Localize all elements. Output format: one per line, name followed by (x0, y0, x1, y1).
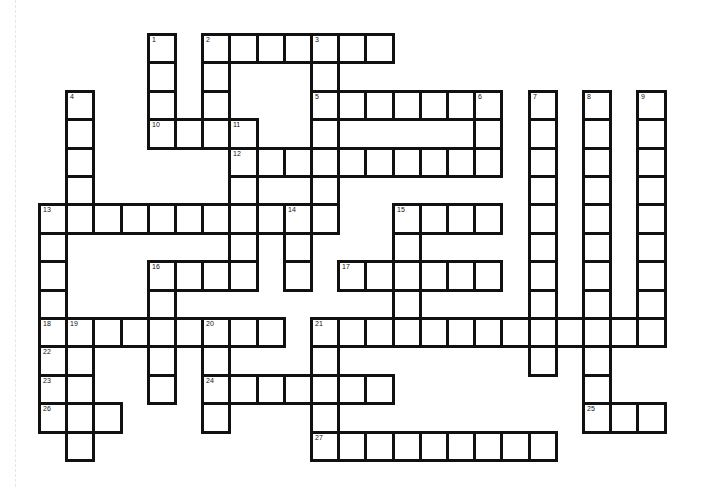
crossword-cell[interactable] (473, 118, 503, 150)
crossword-cell[interactable] (337, 33, 367, 64)
crossword-cell[interactable] (228, 260, 259, 292)
crossword-cell[interactable] (147, 317, 177, 348)
crossword-cell[interactable] (228, 317, 259, 348)
crossword-cell[interactable] (283, 33, 313, 64)
crossword-cell[interactable] (65, 203, 95, 235)
crossword-cell[interactable] (337, 90, 367, 121)
crossword-cell[interactable]: 2 (201, 33, 231, 64)
crossword-cell[interactable] (582, 203, 612, 235)
crossword-cell[interactable] (228, 175, 259, 206)
crossword-cell[interactable] (65, 175, 95, 206)
crossword-cell[interactable] (392, 90, 422, 121)
crossword-cell[interactable] (473, 147, 503, 178)
crossword-cell[interactable] (364, 260, 395, 292)
crossword-cell[interactable] (147, 61, 177, 93)
crossword-cell[interactable] (38, 260, 68, 292)
crossword-cell[interactable] (528, 175, 558, 206)
crossword-cell[interactable] (201, 260, 231, 292)
crossword-cell[interactable] (582, 345, 612, 377)
crossword-cell[interactable] (446, 147, 476, 178)
crossword-cell[interactable] (228, 232, 259, 263)
crossword-cell[interactable] (310, 175, 340, 206)
crossword-cell[interactable] (419, 431, 449, 462)
crossword-cell[interactable] (283, 232, 313, 263)
crossword-cell[interactable] (528, 260, 558, 292)
crossword-cell[interactable] (65, 374, 95, 405)
crossword-cell[interactable] (174, 260, 204, 292)
crossword-cell[interactable] (310, 147, 340, 178)
crossword-cell[interactable] (364, 90, 395, 121)
crossword-cell[interactable]: 25 (582, 402, 612, 434)
crossword-cell[interactable] (392, 289, 422, 320)
crossword-cell[interactable] (256, 374, 286, 405)
crossword-cell[interactable] (582, 232, 612, 263)
crossword-cell[interactable] (228, 374, 259, 405)
crossword-cell[interactable]: 4 (65, 90, 95, 121)
crossword-cell[interactable] (392, 232, 422, 263)
crossword-cell[interactable] (446, 431, 476, 462)
crossword-cell[interactable] (364, 317, 395, 348)
crossword-cell[interactable] (201, 118, 231, 150)
crossword-cell[interactable] (364, 33, 395, 64)
crossword-cell[interactable]: 8 (582, 90, 612, 121)
crossword-cell[interactable]: 13 (38, 203, 68, 235)
crossword-cell[interactable]: 23 (38, 374, 68, 405)
crossword-cell[interactable] (147, 374, 177, 405)
crossword-cell[interactable] (473, 317, 503, 348)
crossword-cell[interactable] (38, 289, 68, 320)
crossword-cell[interactable] (310, 374, 340, 405)
crossword-cell[interactable] (174, 118, 204, 150)
crossword-cell[interactable] (201, 90, 231, 121)
crossword-cell[interactable] (419, 317, 449, 348)
crossword-cell[interactable] (337, 317, 367, 348)
crossword-cell[interactable] (473, 203, 503, 235)
crossword-cell[interactable] (228, 203, 259, 235)
crossword-cell[interactable] (201, 61, 231, 93)
crossword-cell[interactable] (92, 317, 123, 348)
crossword-cell[interactable] (201, 345, 231, 377)
crossword-cell[interactable]: 19 (65, 317, 95, 348)
crossword-cell[interactable] (528, 203, 558, 235)
crossword-cell[interactable] (310, 61, 340, 93)
crossword-cell[interactable] (582, 374, 612, 405)
crossword-cell[interactable] (310, 203, 340, 235)
crossword-cell[interactable] (147, 90, 177, 121)
crossword-cell[interactable] (528, 232, 558, 263)
crossword-cell[interactable] (256, 147, 286, 178)
crossword-cell[interactable] (283, 260, 313, 292)
crossword-cell[interactable]: 17 (337, 260, 367, 292)
crossword-cell[interactable]: 11 (228, 118, 259, 150)
crossword-cell[interactable] (310, 345, 340, 377)
crossword-cell[interactable] (528, 118, 558, 150)
crossword-cell[interactable]: 15 (392, 203, 422, 235)
crossword-cell[interactable] (65, 431, 95, 462)
crossword-cell[interactable] (65, 402, 95, 434)
crossword-cell[interactable]: 26 (38, 402, 68, 434)
crossword-cell[interactable] (147, 203, 177, 235)
crossword-cell[interactable] (201, 402, 231, 434)
crossword-cell[interactable] (256, 203, 286, 235)
crossword-cell[interactable] (364, 374, 395, 405)
crossword-cell[interactable]: 27 (310, 431, 340, 462)
crossword-cell[interactable] (528, 345, 558, 377)
crossword-cell[interactable] (582, 147, 612, 178)
crossword-cell[interactable] (337, 431, 367, 462)
crossword-cell[interactable] (419, 260, 449, 292)
crossword-cell[interactable]: 18 (38, 317, 68, 348)
crossword-cell[interactable] (582, 260, 612, 292)
crossword-cell[interactable]: 22 (38, 345, 68, 377)
crossword-cell[interactable] (256, 33, 286, 64)
crossword-cell[interactable] (473, 260, 503, 292)
crossword-cell[interactable] (446, 203, 476, 235)
crossword-cell[interactable] (636, 289, 667, 320)
crossword-cell[interactable] (528, 431, 558, 462)
crossword-cell[interactable] (473, 431, 503, 462)
crossword-cell[interactable] (65, 147, 95, 178)
crossword-cell[interactable] (528, 317, 558, 348)
crossword-cell[interactable]: 14 (283, 203, 313, 235)
crossword-cell[interactable] (92, 402, 123, 434)
crossword-cell[interactable] (310, 402, 340, 434)
crossword-cell[interactable] (582, 317, 612, 348)
crossword-cell[interactable]: 10 (147, 118, 177, 150)
crossword-cell[interactable] (582, 175, 612, 206)
